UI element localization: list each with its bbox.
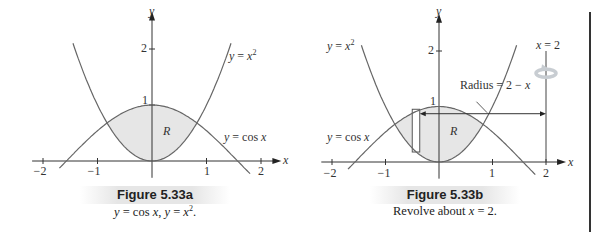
x-tick-neg1: −1 bbox=[88, 164, 101, 179]
figure-5-33a: y x −2 −1 1 2 2 1 y = x2 y = cos x R Fig… bbox=[0, 0, 300, 232]
x-tick-neg2: −2 bbox=[34, 164, 47, 179]
figure-caption: Revolve about x = 2. bbox=[360, 204, 530, 219]
x-axis-label: x bbox=[568, 155, 573, 170]
page-margin-rule bbox=[589, 12, 591, 232]
figure-title: Figure 5.33b bbox=[370, 186, 520, 204]
x-axis-arrow-icon bbox=[272, 158, 281, 164]
y-tick-2: 2 bbox=[428, 43, 434, 58]
x-tick-1: 1 bbox=[489, 166, 495, 181]
label-y-equals-cos-x: y = cos x bbox=[224, 130, 266, 145]
label-y-equals-x-squared: y = x2 bbox=[229, 48, 256, 64]
label-y-equals-x-squared: y = x2 bbox=[327, 38, 354, 54]
slice-rectangle bbox=[412, 109, 419, 152]
region-label-R: R bbox=[163, 124, 170, 139]
x-axis-label: x bbox=[283, 153, 288, 168]
x-tick-1: 1 bbox=[204, 164, 210, 179]
region-label-R: R bbox=[450, 124, 457, 139]
y-axis-label: y bbox=[149, 4, 154, 19]
x-tick-neg1: −1 bbox=[378, 166, 391, 181]
figure-5-33b: y x −2 −1 1 2 2 1 y = x2 y = cos x R x =… bbox=[300, 0, 590, 232]
y-axis-label: y bbox=[436, 4, 441, 19]
label-x-equals-2: x = 2 bbox=[536, 38, 560, 53]
figure-title: Figure 5.33a bbox=[80, 186, 230, 204]
x-axis-arrow-icon bbox=[557, 159, 566, 165]
x-tick-2: 2 bbox=[258, 164, 264, 179]
label-radius: Radius = 2 − x bbox=[460, 78, 530, 93]
x-tick-neg2: −2 bbox=[324, 166, 337, 181]
y-tick-2: 2 bbox=[141, 41, 147, 56]
label-y-equals-cos-x: y = cos x bbox=[327, 130, 369, 145]
x-tick-2: 2 bbox=[543, 166, 549, 181]
radius-arrow-right-icon bbox=[540, 111, 546, 116]
y-tick-1: 1 bbox=[430, 94, 436, 109]
y-tick-1: 1 bbox=[142, 93, 148, 108]
radius-leader-line bbox=[476, 102, 487, 113]
figure-caption: y = cos x, y = x2. bbox=[80, 204, 230, 220]
